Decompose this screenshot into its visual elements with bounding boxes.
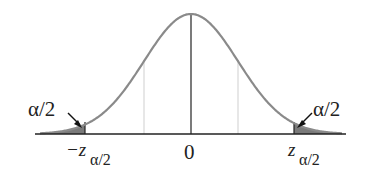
normal-distribution-diagram: α/2 α/2 0 −z α/2 z α/2 [0, 0, 368, 173]
left-critical-subscript: α/2 [90, 151, 111, 168]
right-critical-subscript: α/2 [299, 151, 320, 168]
right-tail-area-label: α/2 [313, 97, 340, 121]
arrow-icon-right [297, 113, 312, 128]
left-critical-prefix: −z [66, 139, 87, 160]
left-tail-area-label: α/2 [28, 97, 55, 121]
left-critical-label: −z [66, 139, 87, 160]
center-tick-label: 0 [184, 140, 195, 164]
right-critical-label: z [287, 139, 296, 160]
arrow-icon-left [68, 113, 82, 128]
